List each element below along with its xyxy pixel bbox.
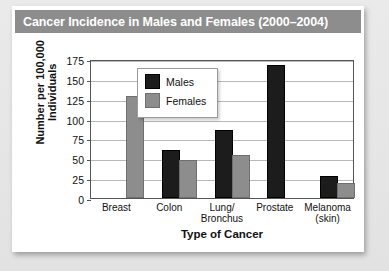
gray-square-swatch (145, 93, 160, 108)
y-axis-tick-label: 50 (72, 154, 84, 166)
legend-label-males: Males (166, 76, 194, 88)
bar-males-3 (267, 65, 285, 198)
x-axis-tick-label: Melanoma(skin) (295, 202, 360, 224)
y-axis-tick-label: 75 (72, 134, 84, 146)
bar-females-2 (232, 155, 250, 198)
x-axis-tick-label-line: Melanoma (295, 202, 360, 213)
y-axis-tick (87, 140, 91, 141)
black-square-swatch (145, 74, 160, 89)
y-axis-tick (87, 200, 91, 201)
y-axis-title-line-2: Individuals (46, 12, 58, 172)
legend-label-females: Females (166, 95, 206, 107)
x-axis-title: Type of Cancer (90, 228, 354, 240)
chart-legend: Males Females (137, 68, 218, 118)
legend-item-males: Males (145, 74, 217, 89)
y-axis-tick (87, 101, 91, 102)
y-axis-tick (87, 180, 91, 181)
chart-title-bar: Cancer Incidence in Males and Females (2… (15, 10, 361, 33)
figure-root: Cancer Incidence in Males and Females (2… (0, 0, 389, 271)
y-axis-tick (87, 61, 91, 62)
y-axis-tick-label: 175 (66, 55, 84, 67)
gridline (91, 61, 353, 62)
y-axis-tick-label: 150 (66, 75, 84, 87)
y-axis-tick-label: 25 (72, 174, 84, 186)
bar-males-4 (320, 176, 338, 198)
y-axis-tick-label: 100 (66, 115, 84, 127)
y-axis-title-line-1: Number per 100,000 (34, 12, 46, 172)
bar-males-1 (162, 150, 180, 198)
legend-item-females: Females (145, 93, 217, 108)
chart-card: Cancer Incidence in Males and Females (2… (12, 6, 364, 252)
y-axis-title: Number per 100,000 Individuals (34, 12, 59, 172)
x-axis-tick-label-line: Bronchus (190, 213, 255, 224)
y-axis-tick-label: 125 (66, 95, 84, 107)
chart-title: Cancer Incidence in Males and Females (2… (23, 15, 328, 29)
y-axis-tick (87, 121, 91, 122)
bar-males-2 (215, 130, 233, 198)
x-axis-tick-label-line: (skin) (295, 213, 360, 224)
bar-females-1 (179, 160, 197, 198)
y-axis-tick (87, 160, 91, 161)
y-axis-tick (87, 81, 91, 82)
plot-area: 1751501251007550250 Males Females (90, 60, 354, 199)
bar-females-4 (337, 183, 355, 198)
gridline (91, 81, 353, 82)
